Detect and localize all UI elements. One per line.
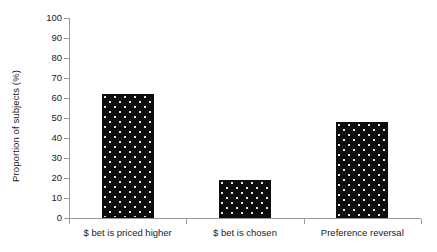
- x-axis-tick: [421, 219, 422, 224]
- bar-chart: Proportion of subjects (%) 0102030405060…: [0, 0, 437, 252]
- x-axis-tick: [304, 219, 305, 224]
- x-axis-line: [69, 218, 421, 219]
- y-axis-tick-label: 40: [38, 133, 62, 143]
- y-axis-labels: 0102030405060708090100: [12, 0, 62, 252]
- x-axis-tick: [69, 219, 70, 224]
- x-axis-labels: $ bet is priced higher$ bet is chosenPre…: [69, 226, 421, 244]
- bar: [219, 180, 271, 218]
- y-axis-tick: [64, 198, 69, 199]
- bar: [336, 122, 388, 218]
- x-axis-category-label: $ bet is chosen: [186, 226, 303, 244]
- y-axis-tick: [64, 78, 69, 79]
- bars-layer: [69, 18, 421, 218]
- y-axis-tick-label: 30: [38, 153, 62, 163]
- x-axis-category-label: $ bet is priced higher: [69, 226, 186, 244]
- y-axis-tick: [64, 178, 69, 179]
- y-axis-tick: [64, 158, 69, 159]
- y-axis-tick: [64, 58, 69, 59]
- y-axis-tick-label: 90: [38, 33, 62, 43]
- x-axis-tick: [186, 219, 187, 224]
- y-axis-tick: [64, 38, 69, 39]
- y-axis-tick-label: 10: [38, 193, 62, 203]
- y-axis-tick: [64, 18, 69, 19]
- y-axis-tick: [64, 138, 69, 139]
- y-axis-tick-label: 50: [38, 113, 62, 123]
- bar: [102, 94, 154, 218]
- x-axis-category-label: Preference reversal: [304, 226, 421, 244]
- y-axis-tick: [64, 98, 69, 99]
- y-axis-tick: [64, 118, 69, 119]
- y-axis-tick-label: 100: [38, 13, 62, 23]
- y-axis-tick-label: 60: [38, 93, 62, 103]
- y-axis-tick-label: 80: [38, 53, 62, 63]
- y-axis-tick-label: 20: [38, 173, 62, 183]
- y-axis-tick-label: 70: [38, 73, 62, 83]
- y-axis-tick-label: 0: [38, 213, 62, 223]
